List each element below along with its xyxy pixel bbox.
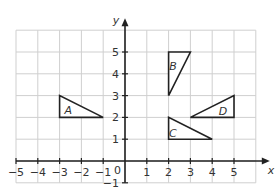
x-tick-label: −3: [51, 166, 67, 179]
x-axis-label: x: [267, 164, 275, 177]
x-tick-label: 3: [187, 166, 194, 179]
y-tick-label: 4: [112, 68, 119, 81]
x-tick-label: −5: [8, 166, 24, 179]
x-tick-label: 2: [165, 166, 172, 179]
y-tick-label: 2: [112, 111, 119, 124]
y-tick-label: 1: [112, 133, 119, 146]
x-tick-label: −4: [30, 166, 46, 179]
triangle-label: C: [169, 127, 177, 140]
triangle-label: A: [64, 104, 73, 117]
y-axis-arrow-icon: [122, 18, 129, 26]
y-tick-label: −1: [103, 177, 119, 190]
y-tick-label: 3: [112, 90, 119, 103]
triangle-label: D: [219, 105, 227, 118]
x-tick-label: 5: [231, 166, 238, 179]
x-tick-label: −2: [73, 166, 89, 179]
x-tick-label: 4: [209, 166, 216, 179]
x-tick-label: 1: [143, 166, 150, 179]
triangle-label: B: [169, 60, 177, 73]
y-axis-label: y: [112, 14, 120, 27]
y-tick-label: 5: [112, 46, 119, 59]
coordinate-grid: −5−4−3−2−112345−1123450xy ABCD: [0, 0, 275, 195]
origin-label: 0: [114, 164, 121, 177]
